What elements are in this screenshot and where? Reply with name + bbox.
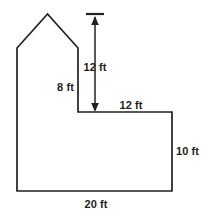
dimension-arrowhead-up	[91, 16, 99, 25]
label-roof-height: 12 ft	[83, 62, 106, 73]
figure-canvas	[0, 0, 210, 216]
label-base-width: 20 ft	[84, 199, 107, 210]
dimension-arrowhead-down	[91, 103, 99, 112]
geometry-figure: 12 ft 8 ft 12 ft 10 ft 20 ft	[0, 0, 210, 216]
label-wall-height: 8 ft	[57, 82, 74, 93]
label-ledge-width: 12 ft	[119, 100, 142, 111]
label-right-height: 10 ft	[176, 146, 199, 157]
